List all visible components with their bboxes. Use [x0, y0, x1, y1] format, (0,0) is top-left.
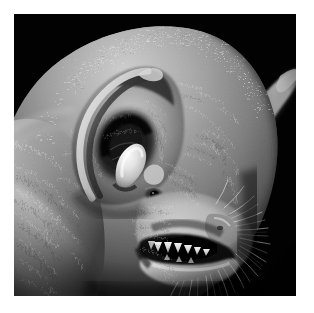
- photo-content: [14, 14, 296, 296]
- film-grain: [14, 14, 296, 296]
- photo-caption: [14, 298, 296, 312]
- bat-photograph: [14, 14, 296, 296]
- screenshot-canvas: [0, 0, 314, 313]
- bat-photo-svg: [14, 14, 296, 296]
